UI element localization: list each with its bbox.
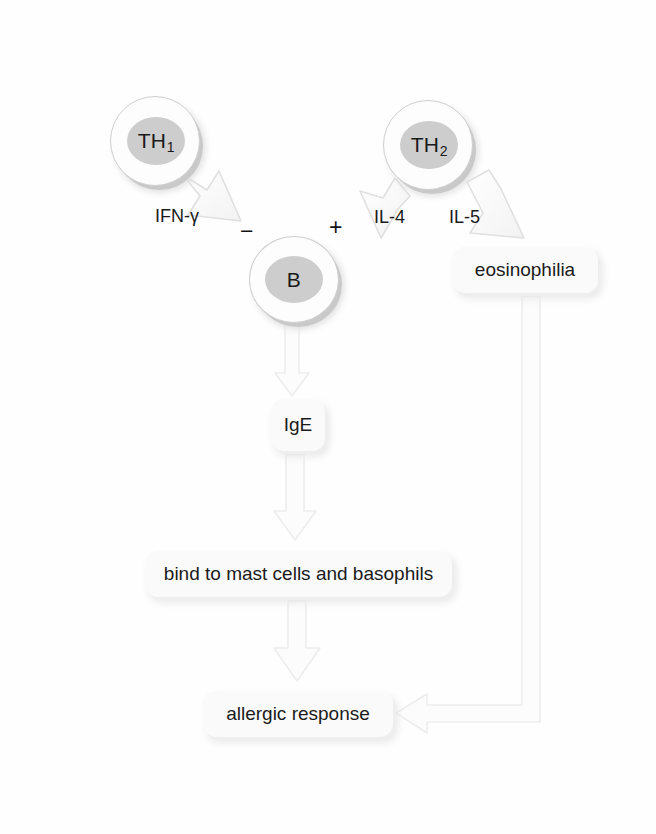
scan-ghost-text-bottom (0, 790, 656, 807)
box-bind-to-mast-cells-and-basophils: bind to mast cells and basophils (145, 551, 452, 597)
cell-b-label: B (287, 268, 301, 292)
arrow-eosinophilia-to-allergic (396, 296, 540, 733)
cell-th1: TH1 (110, 96, 200, 186)
arrow-mast-to-allergic (274, 601, 320, 681)
arrow-ige-to-mast (274, 455, 316, 540)
box-eosinophilia: eosinophilia (452, 247, 598, 293)
sign-activate-plus: + (329, 216, 342, 239)
nucleus-th2: TH2 (400, 121, 458, 169)
cell-b: B (249, 236, 339, 323)
cell-th2: TH2 (383, 100, 473, 190)
nucleus-b: B (265, 256, 323, 303)
cell-th2-label: TH2 (411, 133, 448, 157)
cytokine-label-ifn-gamma: IFN-γ (155, 206, 199, 227)
figure-canvas: TH1 TH2 B IFN-γ IL-4 IL-5 − + eosinophil… (0, 0, 656, 834)
scan-ghost-text-bottom-secondary (0, 814, 656, 829)
nucleus-th1: TH1 (127, 117, 185, 165)
cytokine-label-il5: IL-5 (449, 207, 480, 228)
scan-ghost-text-top (0, 44, 656, 61)
arrow-bcell-to-ige (275, 324, 309, 396)
cell-th1-label: TH1 (138, 129, 175, 153)
box-allergic-response: allergic response (203, 691, 393, 737)
cytokine-label-il4: IL-4 (374, 207, 405, 228)
box-ige: IgE (271, 399, 325, 451)
sign-inhibit-minus: − (240, 220, 253, 243)
